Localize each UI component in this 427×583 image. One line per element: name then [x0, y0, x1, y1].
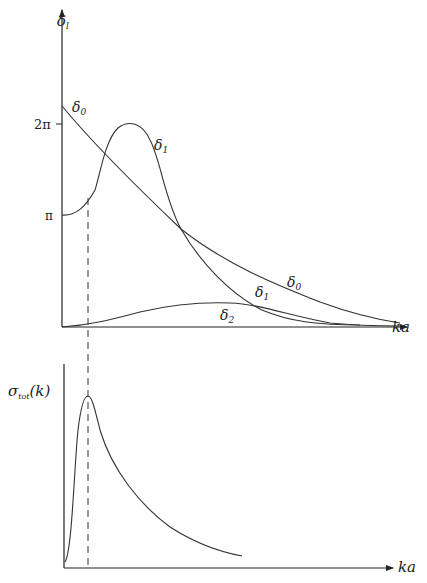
sigma-tot-curve	[65, 396, 242, 562]
delta0-label-tail: δ0	[287, 274, 301, 292]
delta2-label: δ2	[220, 307, 234, 325]
bottom-ylabel: σtot(k)	[8, 382, 50, 401]
top-plot: δl 2π π δ0 δ1 δ0 δ1 δ2 ka	[34, 10, 410, 568]
bottom-xlabel: ka	[398, 558, 416, 576]
phase-shift-diagram: δl 2π π δ0 δ1 δ0 δ1 δ2 ka σtot(k) ka	[0, 0, 427, 583]
top-ylabel: δl	[57, 12, 69, 31]
top-xlabel: ka	[392, 318, 410, 336]
delta1-curve	[62, 124, 360, 325]
delta1-label-top: δ1	[154, 137, 168, 155]
two-pi-label: 2π	[34, 117, 51, 132]
pi-label: π	[45, 209, 53, 223]
delta0-label-top: δ0	[72, 99, 86, 117]
delta1-label-tail: δ1	[255, 284, 269, 302]
delta0-curve	[62, 106, 400, 323]
bottom-plot: σtot(k) ka	[8, 364, 416, 576]
